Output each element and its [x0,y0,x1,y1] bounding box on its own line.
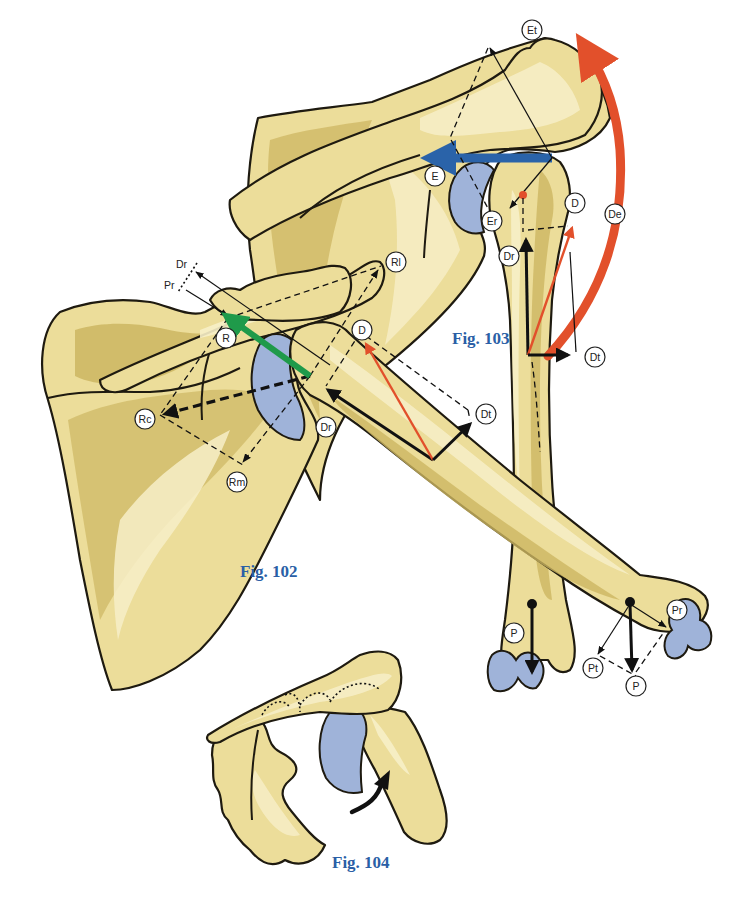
label-De: De [605,204,625,224]
svg-text:P: P [510,627,517,639]
label-Dt-fig102: Dt [476,404,496,424]
label-Rl: Rl [386,252,406,272]
label-P-right: P [626,676,646,696]
svg-text:E: E [431,170,438,182]
fig102-humerus [290,322,711,658]
svg-text:De: De [608,208,622,220]
label-Rc: Rc [135,409,155,429]
svg-text:P: P [632,680,639,692]
svg-text:Rl: Rl [391,256,401,268]
svg-text:D: D [358,324,366,336]
label-Rm: Rm [227,472,247,492]
svg-text:R: R [222,332,230,344]
fig104-shoulder [207,652,447,864]
label-Dt-fig103: Dt [585,347,605,367]
label-R: R [216,328,236,348]
label-P-left: P [504,623,524,643]
svg-text:Et: Et [527,24,537,36]
svg-text:Rc: Rc [139,413,152,425]
svg-text:D: D [571,197,579,209]
svg-text:Dr: Dr [503,250,515,262]
svg-text:Pt: Pt [588,662,598,674]
svg-text:Er: Er [487,215,498,227]
label-E: E [425,166,445,186]
shoulder-biomechanics-diagram: Et E Er Dr D De Dt Dr Pr R Rl Rc Rm Dr D… [0,0,738,920]
label-Dr-top: Dr [176,258,188,270]
label-Dr-fig102: Dr [316,417,336,437]
label-Pr-forearm: Pr [667,600,687,620]
svg-text:Rm: Rm [229,476,246,488]
label-Et: Et [522,20,542,40]
svg-text:Pr: Pr [672,604,683,616]
svg-text:Dt: Dt [590,351,601,363]
label-D-fig102: D [352,320,372,340]
label-D-fig103: D [565,193,585,213]
caption-fig104: Fig. 104 [332,853,390,872]
label-Dr-fig103: Dr [499,246,519,266]
label-Pr-top: Pr [164,279,175,291]
caption-fig103: Fig. 103 [452,329,510,348]
svg-text:Dr: Dr [320,421,332,433]
label-Pt: Pt [583,658,603,678]
svg-text:Dt: Dt [481,408,492,420]
caption-fig102: Fig. 102 [240,562,298,581]
label-Er: Er [482,211,502,231]
